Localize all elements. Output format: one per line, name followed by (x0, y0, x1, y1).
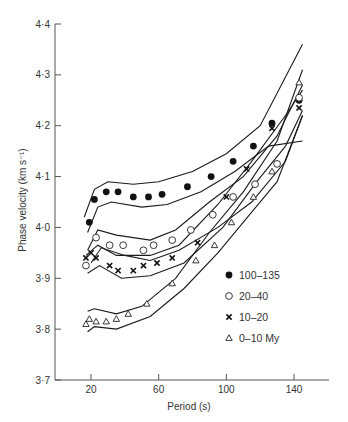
filled-circle-marker (159, 191, 166, 198)
x-ticks: 2060100140 (85, 374, 302, 395)
filled-circle-marker (184, 183, 191, 190)
cross-marker (83, 255, 88, 260)
open-triangle-marker (269, 168, 275, 174)
x-tick-label: 20 (85, 384, 97, 395)
band-lower-line (88, 116, 303, 332)
filled-circle-marker (103, 188, 110, 195)
legend: 100–13520–4010–20 0–10 My (226, 269, 280, 344)
y-tick-label: 3·8 (36, 324, 51, 335)
legend-label: 0–10 My (239, 332, 280, 344)
cross-marker (107, 263, 112, 268)
cross-marker (154, 260, 159, 265)
open-circle-marker (252, 181, 259, 188)
band-lower-line (88, 141, 303, 233)
open-circle-marker (209, 211, 216, 218)
open-triangle-marker (211, 242, 217, 248)
cross-marker (131, 268, 136, 273)
open-triangle-marker (86, 316, 92, 322)
curve-bands (84, 44, 302, 331)
y-tick-label: 3·9 (36, 273, 51, 284)
open-circle-marker (150, 242, 157, 249)
x-tick-label: 60 (153, 384, 165, 395)
legend-marker-open-triangle-icon (226, 335, 232, 341)
y-tick-label: 3·7 (36, 375, 51, 386)
cross-marker (296, 105, 301, 110)
y-tick-label: 4·4 (36, 19, 51, 30)
open-circle-marker (187, 227, 194, 234)
legend-marker-cross-icon (226, 314, 231, 319)
cross-marker (141, 263, 146, 268)
filled-circle-marker (130, 194, 137, 201)
y-tick-label: 4·3 (36, 69, 51, 80)
open-circle-marker (106, 242, 113, 249)
open-triangle-marker (103, 318, 109, 324)
open-triangle-marker (296, 79, 302, 85)
open-circle-marker (230, 194, 237, 201)
cross-marker (195, 240, 200, 245)
filled-circle-marker (208, 173, 215, 180)
y-tick-label: 4·2 (36, 120, 51, 131)
open-circle-marker (296, 94, 303, 101)
filled-circle-marker (86, 219, 93, 226)
open-circle-marker (274, 160, 281, 167)
x-tick-label: 140 (286, 384, 303, 395)
y-tick-label: 4·0 (36, 222, 51, 233)
legend-label: 10–20 (239, 311, 268, 323)
open-circle-marker (83, 262, 90, 269)
y-axis-title: Phase velocity (km s⁻¹) (17, 148, 28, 251)
open-circle-marker (120, 242, 127, 249)
open-triangle-marker (193, 257, 199, 263)
x-tick-label: 100 (218, 384, 235, 395)
legend-label: 100–135 (239, 269, 280, 281)
x-axis-title: Period (s) (167, 401, 210, 412)
open-triangle-marker (113, 316, 119, 322)
filled-circle-marker (115, 188, 122, 195)
cross-marker (115, 268, 120, 273)
cross-marker (170, 255, 175, 260)
phase-velocity-chart: 3·73·83·94·04·14·24·34·4 2060100140 Peri… (0, 0, 348, 422)
axes: 3·73·83·94·04·14·24·34·4 2060100140 Peri… (17, 19, 329, 413)
open-circle-marker (140, 247, 147, 254)
filled-circle-marker (91, 196, 98, 203)
filled-circle-marker (230, 158, 237, 165)
open-circle-marker (169, 237, 176, 244)
y-ticks: 3·73·83·94·04·14·24·34·4 (36, 19, 61, 386)
filled-circle-marker (250, 143, 257, 150)
open-triangle-marker (228, 219, 234, 225)
open-circle-marker (93, 234, 100, 241)
y-tick-label: 4·1 (36, 171, 51, 182)
legend-label: 20–40 (239, 290, 268, 302)
filled-circle-marker (145, 194, 152, 201)
open-triangle-marker (93, 318, 99, 324)
band-upper-line (88, 85, 303, 250)
legend-marker-open-circle-icon (226, 293, 233, 300)
legend-marker-filled-circle-icon (226, 272, 233, 279)
